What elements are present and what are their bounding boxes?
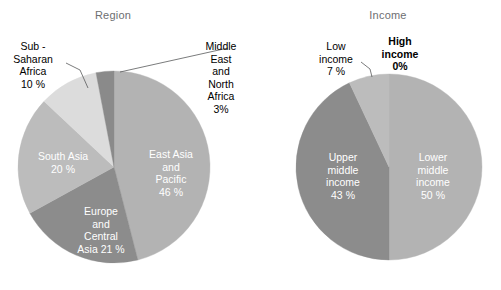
slice-label-lower-middle-income: Lower middle income 50 % — [402, 151, 464, 201]
slice-label-middle-east-north-africa: Middle East and North Africa 3% — [194, 40, 248, 116]
pie-chart-figure: Region Income Sub - Saharan Africa 10 % … — [0, 0, 501, 290]
slice-label-low-income: Low income 7 % — [307, 40, 365, 78]
region-chart-title: Region — [73, 9, 153, 21]
slice-label-sub-saharan-africa: Sub - Saharan Africa 10 % — [2, 40, 64, 90]
slice-label-upper-middle-income: Upper middle income 43 % — [313, 151, 373, 201]
slice-label-south-asia: South Asia 20 % — [25, 150, 101, 175]
income-chart-title: Income — [348, 9, 428, 21]
sub-saharan-africa-leader — [66, 63, 88, 88]
slice-label-europe-central-asia: Europe and Central Asia 21 % — [64, 205, 138, 255]
slice-label-east-asia-pacific: East Asia and Pacific 46 % — [140, 148, 202, 198]
slice-label-high-income: High income 0% — [369, 35, 431, 73]
